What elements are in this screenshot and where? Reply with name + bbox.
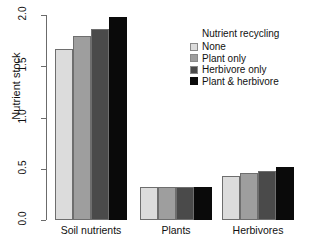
legend-item: None xyxy=(190,41,308,53)
y-axis-tick xyxy=(41,169,46,170)
legend-swatch xyxy=(190,54,198,62)
legend-swatch xyxy=(190,77,198,85)
bar xyxy=(258,171,276,220)
y-axis-tick-label: 0.0 xyxy=(17,204,28,234)
bar xyxy=(109,17,127,220)
legend-item: Plant only xyxy=(190,53,308,65)
y-axis-tick xyxy=(41,220,46,221)
y-axis-tick xyxy=(41,15,46,16)
bar xyxy=(240,173,258,220)
legend-swatch xyxy=(190,43,198,51)
bar-group xyxy=(55,10,127,220)
bar xyxy=(222,176,240,220)
legend-item-label: Herbivore only xyxy=(202,64,266,75)
legend-item: Plant & herbivore xyxy=(190,76,308,88)
bar xyxy=(176,187,194,220)
legend-item: Herbivore only xyxy=(190,64,308,76)
y-axis-tick xyxy=(41,118,46,119)
legend-item-label: Plant only xyxy=(202,53,246,64)
bar xyxy=(73,36,91,221)
x-axis-label: Herbivores xyxy=(208,224,308,236)
y-axis-tick-label: 0.5 xyxy=(17,152,28,182)
y-axis-tick-label: 1.5 xyxy=(17,50,28,80)
bar xyxy=(91,29,109,220)
legend-title: Nutrient recycling xyxy=(202,28,308,39)
bar xyxy=(55,49,73,220)
legend-swatch xyxy=(190,66,198,74)
bar xyxy=(194,187,212,220)
bar xyxy=(158,187,176,220)
bar xyxy=(276,167,294,220)
legend-entries: NonePlant onlyHerbivore onlyPlant & herb… xyxy=(190,41,308,87)
y-axis-tick-label: 2.0 xyxy=(17,0,28,29)
legend-item-label: None xyxy=(202,41,226,52)
bar-chart: Nutrient stock 0.00.51.01.52.0 Soil nutr… xyxy=(0,0,309,243)
legend-item-label: Plant & herbivore xyxy=(202,76,279,87)
legend: Nutrient recycling NonePlant onlyHerbivo… xyxy=(190,28,308,87)
y-axis-tick xyxy=(41,66,46,67)
y-axis-tick-label: 1.0 xyxy=(17,101,28,131)
bar xyxy=(140,187,158,220)
